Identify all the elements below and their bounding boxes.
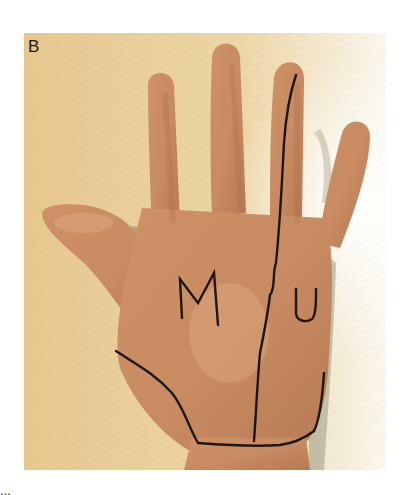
panel-label: B: [28, 38, 39, 55]
hand-illustration: [24, 33, 386, 470]
hand-photo: [24, 33, 386, 470]
caption-fragment: ...: [0, 484, 60, 495]
